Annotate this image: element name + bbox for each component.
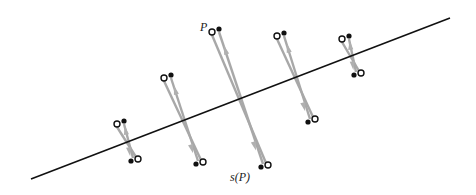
arrow-up-icon bbox=[224, 46, 229, 55]
arrow-down-icon bbox=[350, 61, 355, 70]
filled-point-marker bbox=[216, 26, 221, 31]
open-point-marker bbox=[114, 121, 120, 127]
filled-point-marker bbox=[258, 164, 263, 169]
arrow-down-icon bbox=[188, 144, 193, 153]
open-point-marker bbox=[209, 29, 215, 35]
filled-point-marker bbox=[128, 158, 133, 163]
open-point-marker bbox=[339, 36, 345, 42]
open-point-marker bbox=[200, 159, 206, 165]
arrow-up-icon bbox=[287, 44, 292, 53]
open-point-marker bbox=[358, 70, 364, 76]
point-label-p: P bbox=[200, 21, 207, 33]
filled-point-marker bbox=[346, 33, 351, 38]
open-point-marker bbox=[135, 156, 141, 162]
open-point-marker bbox=[265, 162, 271, 168]
arrow-down-icon bbox=[300, 102, 305, 111]
arrow-down-icon bbox=[251, 141, 256, 150]
open-point-marker bbox=[312, 116, 318, 122]
reflection-segments bbox=[117, 32, 359, 164]
filled-point-marker bbox=[168, 72, 173, 77]
arrow-down-icon bbox=[126, 147, 131, 156]
reflection-axis-line bbox=[31, 18, 450, 179]
arrow-up-icon bbox=[174, 86, 179, 95]
filled-point-marker bbox=[121, 118, 126, 123]
filled-point-marker bbox=[281, 30, 286, 35]
open-point-marker bbox=[274, 33, 280, 39]
filled-point-marker bbox=[351, 72, 356, 77]
reflection-diagram bbox=[0, 0, 476, 195]
open-point-marker bbox=[161, 75, 167, 81]
image-label-s-of-p: s(P) bbox=[230, 171, 250, 183]
filled-point-marker bbox=[193, 161, 198, 166]
filled-point-marker bbox=[305, 119, 310, 124]
